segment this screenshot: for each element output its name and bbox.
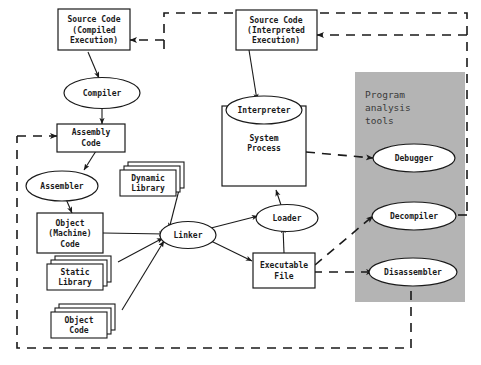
node-object-machine-line2: (Machine) bbox=[48, 228, 91, 238]
node-linker[interactable]: Linker bbox=[160, 222, 216, 249]
node-source-compiled-line3: Execution) bbox=[70, 35, 118, 45]
node-interpreter-label: Interpreter bbox=[238, 106, 291, 115]
edge-static-library-to-linker bbox=[118, 238, 163, 262]
edge-object-code-to-linker bbox=[122, 241, 164, 310]
node-source-interpreted-line2: (Interpreted bbox=[247, 26, 305, 35]
node-static-library-line2: Library bbox=[58, 277, 92, 287]
node-source-interpreted-line1: Source Code bbox=[250, 16, 303, 25]
node-system-process-line2: Process bbox=[247, 144, 281, 153]
node-source-code-interpreted[interactable]: Source Code (Interpreted Execution) bbox=[236, 10, 317, 50]
node-source-code-compiled[interactable]: Source Code (Compiled Execution) bbox=[58, 9, 130, 50]
node-disassembler-label: Disassembler bbox=[384, 267, 442, 277]
node-compiler-label: Compiler bbox=[83, 88, 122, 98]
edge-object-machine-code-to-linker bbox=[103, 233, 165, 234]
node-assembler[interactable]: Assembler bbox=[26, 171, 98, 201]
node-object-machine-line3: Code bbox=[60, 240, 79, 249]
node-object-code-line2: Code bbox=[69, 326, 88, 335]
panel-title-line2: analysis bbox=[365, 102, 411, 113]
edge-linker-to-loader bbox=[211, 216, 258, 228]
node-object-code[interactable]: Object Code bbox=[51, 304, 115, 338]
node-static-library[interactable]: Static Library bbox=[47, 256, 111, 290]
node-static-library-line1: Static bbox=[61, 267, 90, 277]
node-dynamic-library-line2: Library bbox=[131, 183, 165, 193]
edge-linker-to-executable-file bbox=[211, 241, 252, 261]
edge-assembly-code-to-assembler bbox=[84, 151, 96, 170]
node-debugger[interactable]: Debugger bbox=[373, 144, 455, 172]
node-decompiler[interactable]: Decompiler bbox=[372, 202, 456, 230]
node-assembly-code-line2: Code bbox=[81, 139, 100, 148]
node-dynamic-library-line1: Dynamic bbox=[131, 173, 165, 183]
node-debugger-label: Debugger bbox=[395, 154, 434, 163]
node-source-interpreted-line3: Execution) bbox=[252, 35, 300, 45]
node-dynamic-library[interactable]: Dynamic Library bbox=[120, 162, 184, 196]
node-disassembler[interactable]: Disassembler bbox=[369, 258, 457, 286]
node-loader[interactable]: Loader bbox=[256, 205, 318, 232]
node-interpreter[interactable]: Interpreter bbox=[226, 96, 302, 124]
panel-title-line3: tools bbox=[365, 115, 394, 126]
edge-source-compiled-to-compiler bbox=[88, 52, 99, 78]
node-source-compiled-line1: Source Code bbox=[68, 15, 121, 24]
node-assembler-label: Assembler bbox=[40, 182, 84, 191]
node-source-compiled-line2: (Compiled bbox=[72, 25, 116, 35]
node-object-machine-code[interactable]: Object (Machine) Code bbox=[37, 213, 103, 253]
edge-source-interpreted-to-interpreter bbox=[249, 50, 257, 100]
diagram-svg: Program analysis tools bbox=[0, 0, 481, 365]
node-executable-file-line2: File bbox=[274, 271, 293, 281]
node-decompiler-label: Decompiler bbox=[390, 211, 438, 221]
panel-title-line1: Program bbox=[365, 89, 405, 100]
diagram-canvas: Program analysis tools bbox=[0, 0, 481, 365]
node-compiler[interactable]: Compiler bbox=[64, 78, 140, 109]
node-executable-file-line1: Executable bbox=[260, 261, 308, 270]
node-object-code-line1: Object bbox=[65, 315, 94, 325]
node-executable-file[interactable]: Executable File bbox=[253, 253, 315, 288]
node-assembly-code[interactable]: Assembly Code bbox=[57, 124, 125, 152]
node-loader-label: Loader bbox=[273, 214, 302, 223]
node-assembly-code-line1: Assembly bbox=[72, 128, 111, 137]
node-linker-label: Linker bbox=[174, 230, 203, 240]
node-system-process-line1: System bbox=[250, 134, 279, 143]
node-object-machine-line1: Object bbox=[56, 218, 85, 228]
